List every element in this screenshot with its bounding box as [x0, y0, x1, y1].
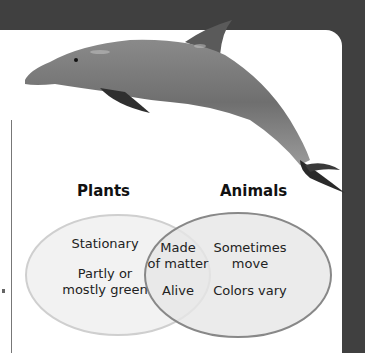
animals-title: Animals	[220, 182, 287, 200]
animals-item-colors: Colors vary	[205, 283, 295, 299]
plants-title: Plants	[77, 182, 130, 200]
plants-item-stationary: Stationary	[55, 236, 155, 252]
animals-item-move: Sometimes move	[205, 240, 295, 272]
animals-circle	[145, 213, 331, 337]
plants-item-green: Partly or mostly green	[55, 266, 155, 298]
intersection-item-alive: Alive	[142, 283, 214, 299]
venn-diagram	[0, 0, 365, 353]
intersection-item-matter: Made of matter	[142, 240, 214, 272]
